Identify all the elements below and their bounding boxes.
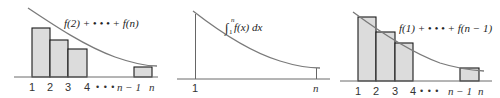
tick-4: 4 bbox=[84, 81, 90, 93]
tick-1: 1 bbox=[192, 82, 198, 94]
tick-ellipsis: • • • bbox=[96, 82, 115, 92]
tick-4: 4 bbox=[410, 85, 416, 97]
tick-2: 2 bbox=[373, 85, 379, 97]
tick-n: n bbox=[149, 81, 155, 93]
tick-3: 3 bbox=[392, 85, 398, 97]
integral-lower: 1 bbox=[229, 28, 233, 36]
tick-n-minus-1: n − 1 bbox=[117, 81, 141, 93]
bar-2-3 bbox=[50, 40, 68, 77]
tick-1: 1 bbox=[355, 85, 361, 97]
tick-n-minus-1: n − 1 bbox=[448, 85, 472, 97]
tick-2: 2 bbox=[47, 81, 53, 93]
sum-label: f(2) + • • • + f(n) bbox=[64, 17, 139, 30]
tick-3: 3 bbox=[65, 81, 71, 93]
panel-left: f(2) + • • • + f(n) 1 2 3 4 • • • n − 1 … bbox=[14, 8, 158, 93]
panel-center: ∫ n 1 f(x) dx 1 n bbox=[177, 11, 330, 94]
integral-body: f(x) dx bbox=[234, 21, 263, 34]
sum-label: f(1) + • • • + f(n − 1) bbox=[399, 22, 492, 35]
integral-label: ∫ n 1 f(x) dx bbox=[224, 16, 263, 36]
tick-n: n bbox=[313, 82, 319, 94]
bar-3-4 bbox=[68, 49, 87, 77]
panel-right: f(1) + • • • + f(n − 1) 1 2 3 4 • • • n … bbox=[340, 12, 492, 97]
bar-n1-n bbox=[134, 67, 152, 77]
integral-test-diagram: f(2) + • • • + f(n) 1 2 3 4 • • • n − 1 … bbox=[0, 0, 500, 98]
tick-1: 1 bbox=[29, 81, 35, 93]
tick-ellipsis: • • • bbox=[420, 86, 439, 96]
tick-n: n bbox=[478, 85, 484, 97]
curve-f bbox=[193, 11, 320, 68]
bar-1-2 bbox=[32, 28, 50, 77]
